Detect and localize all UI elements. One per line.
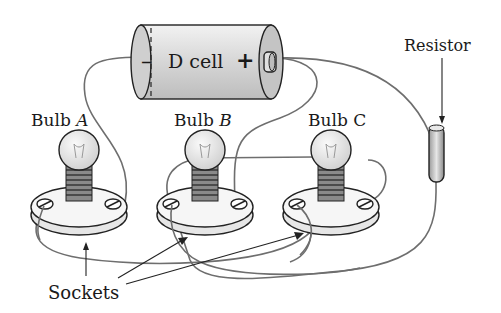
sockets-label: Sockets — [48, 284, 119, 302]
bulb-c-assembly — [283, 130, 379, 235]
resistor-label: Resistor — [404, 38, 471, 54]
battery-positive-sign: + — [236, 49, 254, 71]
bulb-a-letter: A — [76, 110, 88, 130]
bulb-c-letter: C — [353, 110, 366, 130]
battery-label: D cell — [168, 52, 223, 71]
bulb-c-prefix: Bulb — [308, 110, 348, 130]
wire-battery-pos-to-resistor — [276, 58, 437, 155]
battery-negative-sign: – — [141, 51, 152, 73]
bulb-b-label: Bulb B — [174, 112, 232, 129]
bulb-a-label: Bulb A — [31, 112, 88, 129]
bulb-b-prefix: Bulb — [174, 110, 214, 130]
bulb-c-label: Bulb C — [308, 112, 366, 129]
bulb-a-prefix: Bulb — [31, 110, 71, 130]
bulb-b-letter: B — [219, 110, 232, 130]
wire-bulb-c-right-loop — [368, 160, 386, 200]
resistor — [429, 58, 445, 182]
